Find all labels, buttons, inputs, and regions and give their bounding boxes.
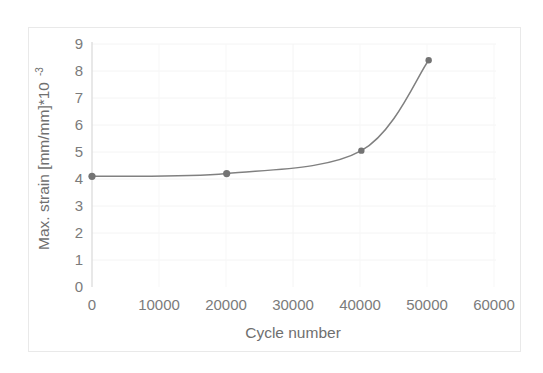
y-tick-label: 0: [75, 278, 83, 295]
x-tick-label: 60000: [473, 296, 515, 313]
x-tick-label: 10000: [138, 296, 180, 313]
y-tick-label: 3: [75, 197, 83, 214]
data-point: [88, 173, 95, 180]
y-tick-label: 1: [75, 251, 83, 268]
data-point: [223, 170, 230, 177]
x-tick-label: 0: [88, 296, 96, 313]
y-tick-label: 6: [75, 116, 83, 133]
gridlines-horizontal: [92, 44, 496, 260]
data-markers: [88, 57, 431, 180]
y-tick-label: 4: [75, 170, 83, 187]
y-tick-label: 8: [75, 62, 83, 79]
x-tick-labels: 0 10000 20000 30000 40000 50000 60000: [88, 296, 515, 313]
x-tick-label: 50000: [406, 296, 448, 313]
chart-frame: 0 1 2 3 4 5 6 7 8 9 0 10000 20000 30000 …: [28, 27, 521, 352]
y-tick-labels: 0 1 2 3 4 5 6 7 8 9: [75, 35, 83, 295]
y-tick-label: 5: [75, 143, 83, 160]
y-tick-label: 7: [75, 89, 83, 106]
y-tick-label: 2: [75, 224, 83, 241]
x-tick-label: 30000: [272, 296, 314, 313]
y-tick-label: 9: [75, 35, 83, 52]
data-point: [358, 147, 364, 153]
gridlines-vertical: [159, 44, 494, 287]
line-chart: 0 1 2 3 4 5 6 7 8 9 0 10000 20000 30000 …: [29, 28, 520, 351]
figure-container: 0 1 2 3 4 5 6 7 8 9 0 10000 20000 30000 …: [0, 0, 543, 373]
y-axis-title-exponent: -3: [34, 67, 45, 76]
data-line: [92, 60, 429, 176]
x-axis-title: Cycle number: [245, 324, 341, 341]
y-axis-title-text: Max. strain [mm/mm]*10: [35, 82, 52, 250]
x-tick-label: 40000: [339, 296, 381, 313]
data-point: [425, 57, 431, 63]
x-tick-label: 20000: [205, 296, 247, 313]
y-axis-title: Max. strain [mm/mm]*10 -3: [34, 67, 52, 250]
